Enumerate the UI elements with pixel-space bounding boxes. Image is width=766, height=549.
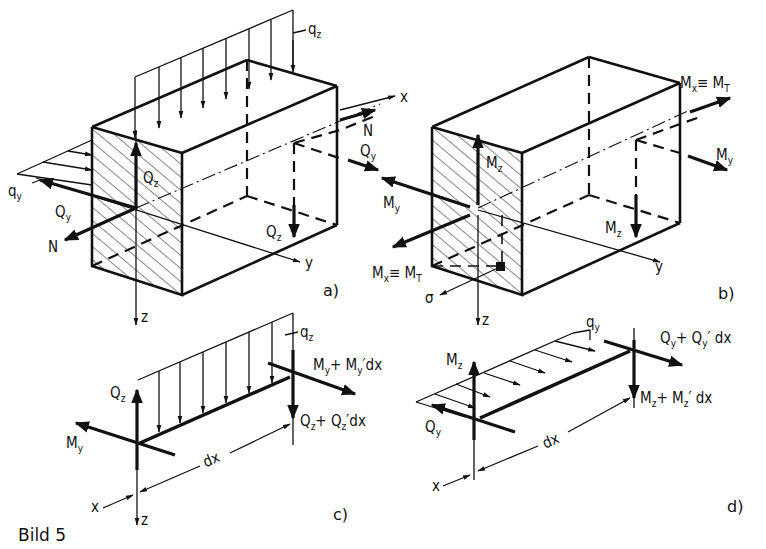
label-Mz-right: Mz: [605, 219, 622, 239]
panel-label-b: b): [718, 284, 734, 303]
label-Mx-MT-left: Mx≡ MT: [372, 264, 422, 284]
label-My-c: My: [66, 434, 84, 454]
beam-element-d: [480, 351, 630, 418]
label-Mz-d: Mz: [446, 351, 463, 371]
label-Qy-d: Qy: [425, 418, 442, 438]
axis-x-d: [443, 475, 470, 486]
label-Mz-plus-d: Mz+ Mz′ dx: [640, 389, 712, 409]
label-dx-d: dx: [539, 429, 561, 452]
panel-a: qz qy z y x Qz Qy N N Qy Qz: [8, 10, 408, 326]
label-Qy-plus-d: Qy+ Qy′ dx: [660, 329, 731, 349]
label-qy-d: qy: [586, 313, 601, 333]
label-N-right: N: [363, 122, 373, 140]
label-axis-z-b: z: [482, 311, 489, 329]
dimension-dx-left-d: [478, 446, 538, 471]
figure-canvas: qz qy z y x Qz Qy N N Qy Qz: [0, 0, 766, 549]
moment-My-c: [76, 423, 175, 455]
figure-caption: Bild 5: [18, 525, 66, 545]
dimension-dx-left: [140, 466, 200, 492]
dimension-dx-right-d: [568, 398, 630, 432]
moment-Mx-right: [690, 98, 730, 112]
label-qz-c: qz: [300, 323, 314, 343]
label-My-right: My: [716, 146, 734, 166]
label-Qz-plus-c: Qz+ Qz′dx: [300, 412, 366, 432]
label-axis-x: x: [400, 88, 408, 106]
label-axis-z-c: z: [141, 511, 148, 529]
label-My-left: My: [383, 194, 401, 214]
distributed-load-qy: [17, 140, 92, 185]
panel-c: qz z x Qz My My+ My′dx Qz+ Qz′dx dx c): [66, 313, 382, 529]
label-axis-x-d: x: [432, 477, 440, 495]
panel-d: qy x Mz Qy Qy+ Qy′ dx Mz+ Mz′ dx dx d): [416, 313, 743, 516]
dimension-dx-right: [230, 424, 290, 453]
label-N-left: N: [48, 238, 58, 256]
label-Mx-MT-right: Mx≡ MT: [680, 74, 730, 94]
axis-x: [340, 96, 395, 110]
label-axis-z: z: [141, 308, 148, 326]
panel-label-c: c): [333, 505, 348, 524]
label-qy: qy: [8, 182, 23, 202]
label-axis-y: y: [305, 254, 313, 272]
label-Qz-right: Qz: [266, 223, 282, 243]
distributed-load-qz-c: [159, 322, 298, 432]
label-axis-x-c: x: [91, 498, 99, 516]
label-sigma: σ: [425, 289, 434, 307]
beam-element-c: [140, 377, 290, 443]
label-Qy-left: Qy: [55, 203, 72, 223]
distributed-load-qz: [135, 10, 306, 138]
axis-x-c: [103, 495, 133, 508]
label-dx-c: dx: [200, 448, 222, 471]
stress-point: [496, 262, 505, 271]
label-My-plus-c: My+ My′dx: [313, 356, 382, 376]
label-Qy-right: Qy: [360, 142, 377, 162]
label-Qz-c: Qz: [110, 384, 126, 404]
panel-b: z y σ Mz My Mx≡ MT Mx≡ MT My Mz b): [372, 57, 734, 329]
label-axis-y-b: y: [655, 258, 663, 276]
panel-label-d: d): [727, 497, 743, 516]
panel-label-a: a): [323, 281, 339, 300]
label-qz: qz: [308, 20, 322, 40]
